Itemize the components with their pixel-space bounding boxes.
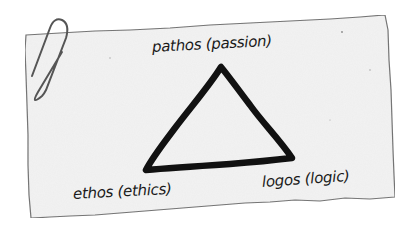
rhetorical-triangle-note: pathos (passion) ethos (ethics) logos (l…: [0, 0, 419, 232]
